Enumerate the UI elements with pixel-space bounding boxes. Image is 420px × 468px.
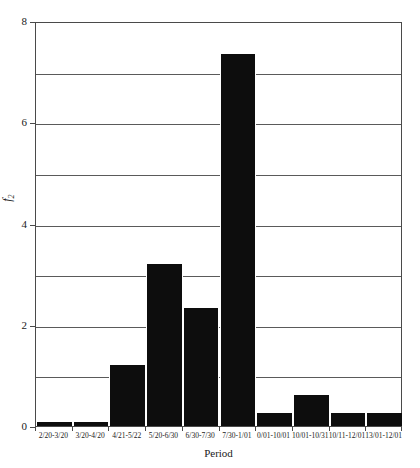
bar-chart-figure: 02468 f2 2/20-3/203/20-4/204/21-5/225/20… — [0, 0, 420, 468]
x-axis: 2/20-3/203/20-4/204/21-5/225/20-6/306/30… — [35, 427, 402, 447]
x-axis-tick-label: 10/01-10/31 — [292, 431, 329, 440]
bars-layer — [36, 23, 401, 426]
bar — [146, 264, 183, 426]
x-axis-tick-label: 5/20-6/30 — [149, 431, 178, 440]
y-axis-title-subscript: 2 — [7, 195, 16, 199]
y-axis-tick-label: 6 — [22, 117, 28, 128]
x-axis-tick-label: 2/20-3/20 — [39, 431, 68, 440]
x-axis-tick-label: 13/01-12/01 — [365, 431, 402, 440]
bar — [293, 395, 330, 426]
x-axis-tick-label: 7/30-1/01 — [222, 431, 251, 440]
x-axis-tick-label: 4/21-5/22 — [112, 431, 141, 440]
y-axis-tick-label: 0 — [22, 421, 28, 432]
bar — [256, 413, 293, 426]
x-axis-tick — [255, 427, 256, 431]
x-axis-tick — [219, 427, 220, 431]
x-axis-title: Period — [35, 447, 402, 459]
bar — [330, 413, 367, 426]
plot-area — [35, 22, 402, 427]
x-axis-tick-label: 10/11-12/01 — [329, 431, 365, 440]
x-axis-tick-label: 0/01-10/01 — [257, 431, 290, 440]
y-axis-title: f2 — [0, 176, 16, 220]
bar — [73, 422, 110, 426]
chart-title — [35, 1, 402, 11]
y-axis: 02468 — [0, 22, 35, 427]
bar — [183, 308, 220, 426]
bar — [36, 422, 73, 426]
x-axis-tick — [72, 427, 73, 431]
y-axis-tick-label: 2 — [22, 320, 28, 331]
bar — [109, 365, 146, 426]
x-axis-tick-label: 6/30-7/30 — [186, 431, 215, 440]
bar — [220, 54, 257, 426]
bar — [366, 413, 403, 426]
x-axis-tick — [182, 427, 183, 431]
y-axis-title-base: f — [0, 199, 14, 202]
x-axis-tick — [108, 427, 109, 431]
y-axis-tick-label: 8 — [22, 16, 28, 27]
x-axis-tick-label: 3/20-4/20 — [75, 431, 104, 440]
y-axis-tick-label: 4 — [22, 219, 28, 230]
x-axis-tick — [35, 427, 36, 431]
x-axis-tick — [145, 427, 146, 431]
